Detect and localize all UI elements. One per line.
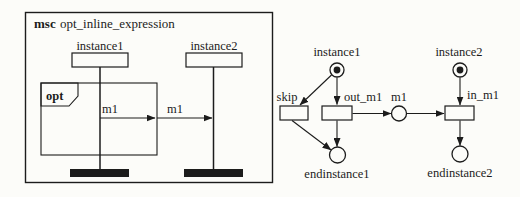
place-endinstance2-label: endinstance2 <box>427 166 492 180</box>
msc-message-m1-label-1: m1 <box>102 102 118 116</box>
msc-instance2-header-box <box>186 53 242 67</box>
msc-diagram: msc opt_inline_expression instance1 inst… <box>26 13 273 183</box>
transition-outm1 <box>322 106 352 120</box>
petri-net-diagram: instance1 instance2 skip out_m1 m1 in_m1… <box>277 45 499 181</box>
place-endinstance1-label: endinstance1 <box>304 167 369 181</box>
place-m1 <box>392 106 407 121</box>
transition-outm1-label: out_m1 <box>344 90 382 104</box>
arc-skip-to-endinstance1 <box>292 121 331 151</box>
msc-title: opt_inline_expression <box>60 16 175 31</box>
transition-skip-label: skip <box>277 90 298 104</box>
msc-instance2-label: instance2 <box>190 39 237 53</box>
msc-message-m1-label-2: m1 <box>167 102 183 116</box>
msc-instance1-end-bar <box>70 169 129 177</box>
place-instance1-token <box>334 67 341 74</box>
inline-expression-operator-label: opt <box>46 89 64 103</box>
msc-instance1-header-box <box>72 53 128 67</box>
place-instance2-token <box>457 67 464 74</box>
place-instance1-label: instance1 <box>313 45 360 59</box>
transition-inm1 <box>445 106 474 120</box>
place-m1-label: m1 <box>391 90 407 104</box>
place-endinstance1 <box>330 147 346 163</box>
arc-instance1-to-skip <box>300 75 332 105</box>
place-instance2-label: instance2 <box>435 45 482 59</box>
transition-inm1-label: in_m1 <box>467 88 499 102</box>
msc-instance1-label: instance1 <box>76 39 123 53</box>
transition-skip <box>280 106 308 120</box>
msc-petrinet-figure: msc opt_inline_expression instance1 inst… <box>0 0 520 197</box>
msc-instance2-end-bar <box>184 169 243 177</box>
place-endinstance2 <box>452 146 468 162</box>
msc-keyword: msc <box>34 16 56 31</box>
figure-canvas: msc opt_inline_expression instance1 inst… <box>0 0 520 197</box>
